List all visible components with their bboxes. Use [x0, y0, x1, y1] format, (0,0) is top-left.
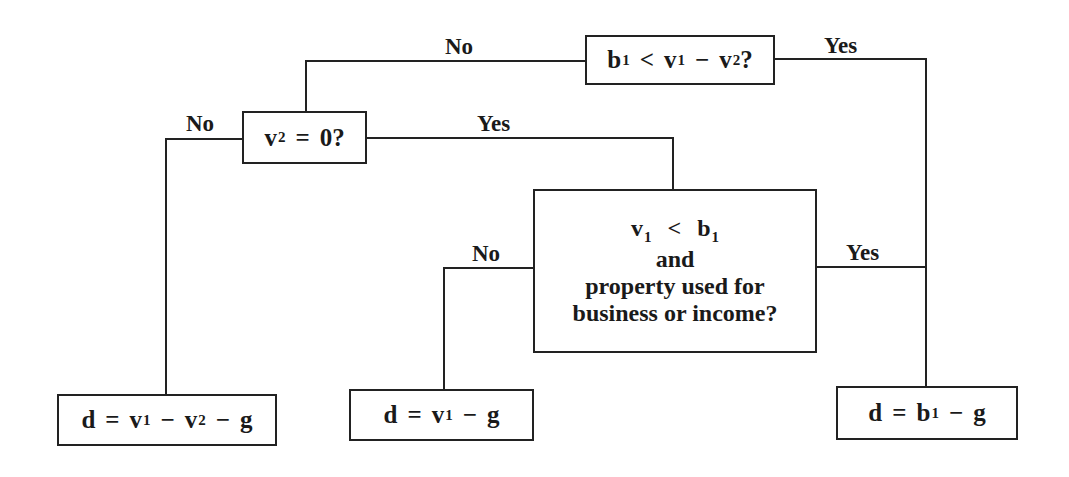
result-node-middle: d = v1 − g	[349, 389, 534, 441]
result-node-right: d = b1 − g	[836, 386, 1018, 440]
edge-v2zero-no	[166, 139, 244, 395]
question-mark: ?	[740, 46, 753, 74]
var-g: g	[487, 401, 500, 429]
subscript: 2	[278, 129, 286, 146]
operator: <	[667, 215, 681, 241]
var-b: b	[607, 46, 621, 74]
edge-root-no	[306, 61, 585, 112]
condition-line-1: v1 < b1	[631, 215, 719, 246]
subscript: 1	[931, 405, 939, 422]
operator: −	[161, 406, 175, 434]
edge-label-yes: Yes	[846, 240, 879, 266]
operator: <	[640, 46, 654, 74]
operator: =	[105, 406, 119, 434]
var-v: v	[631, 215, 643, 241]
condition-line-4: business or income?	[573, 300, 778, 327]
decision-tree-diagram: No Yes No Yes No Yes b1 < v1 − v2? v2 = …	[0, 0, 1069, 477]
decision-node-root: b1 < v1 − v2?	[585, 35, 775, 85]
var-b: b	[917, 399, 931, 427]
edge-label-no: No	[186, 111, 214, 137]
subscript: 1	[677, 52, 685, 69]
edge-label-yes: Yes	[477, 111, 510, 137]
condition-line-3: property used for	[585, 273, 765, 300]
value: 0?	[320, 124, 345, 152]
edge-v2zero-yes	[366, 138, 673, 190]
operator: =	[295, 124, 309, 152]
subscript: 1	[644, 229, 652, 245]
edge-label-no: No	[445, 34, 473, 60]
var-g: g	[973, 399, 986, 427]
var-v: v	[664, 46, 677, 74]
var-b: b	[697, 215, 710, 241]
decision-node-v2-zero: v2 = 0?	[242, 111, 367, 164]
subscript: 2	[198, 412, 206, 429]
var-d: d	[868, 399, 882, 427]
var-v: v	[264, 124, 277, 152]
operator: −	[463, 401, 477, 429]
var-v: v	[719, 46, 732, 74]
condition-line-2: and	[656, 246, 695, 273]
subscript: 1	[712, 229, 720, 245]
var-v: v	[432, 401, 445, 429]
subscript: 2	[733, 52, 741, 69]
subscript: 1	[445, 407, 453, 424]
edge-label-yes: Yes	[824, 33, 857, 59]
operator: =	[892, 399, 906, 427]
var-d: d	[384, 401, 398, 429]
result-node-left: d = v1 − v2 − g	[57, 394, 277, 446]
subscript: 1	[143, 412, 151, 429]
operator: −	[949, 399, 963, 427]
var-g: g	[240, 406, 253, 434]
var-v: v	[130, 406, 143, 434]
operator: −	[695, 46, 709, 74]
subscript: 1	[622, 52, 630, 69]
operator: −	[216, 406, 230, 434]
var-v: v	[185, 406, 198, 434]
var-d: d	[81, 406, 95, 434]
edge-label-no: No	[472, 241, 500, 267]
decision-node-business-use: v1 < b1 and property used for business o…	[533, 189, 817, 353]
operator: =	[407, 401, 421, 429]
edge-mid-no	[444, 268, 534, 390]
